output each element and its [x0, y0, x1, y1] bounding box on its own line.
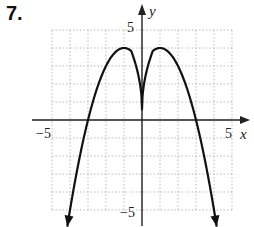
y-max-label: 5 [127, 20, 134, 35]
y-min-label: −5 [120, 205, 135, 220]
graph: −5 5 x 5 −5 y [0, 0, 254, 227]
x-max-label: 5 [225, 126, 232, 141]
y-axis-label: y [147, 3, 156, 19]
axes [32, 4, 250, 226]
x-axis-label: x [239, 126, 247, 142]
x-min-label: −5 [36, 126, 51, 141]
